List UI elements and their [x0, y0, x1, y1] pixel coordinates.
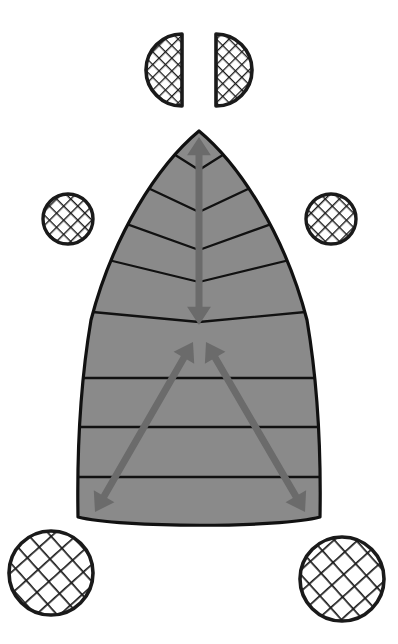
leaf-diagram-svg: [0, 0, 398, 644]
marker-group-top: [146, 34, 252, 106]
half-circle-top-left: [146, 34, 182, 106]
leaf-blade: [74, 131, 324, 525]
circle-mid-right: [306, 194, 356, 244]
half-circle-top-right: [216, 34, 252, 106]
marker-group-bottom: [9, 531, 384, 621]
circle-bottom-right: [300, 537, 384, 621]
figure-root: Leaf diagram with hatched circle markers…: [0, 0, 398, 644]
circle-bottom-left: [9, 531, 93, 615]
circle-mid-left: [43, 194, 93, 244]
